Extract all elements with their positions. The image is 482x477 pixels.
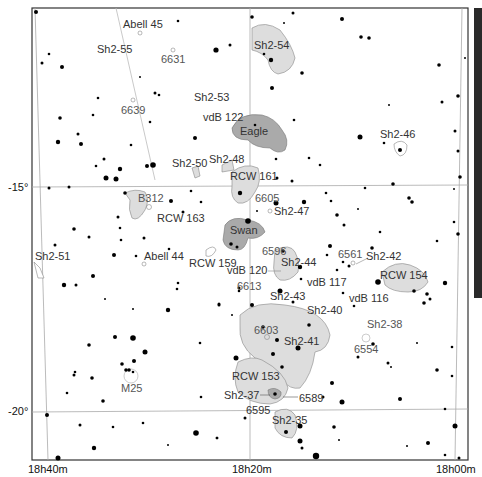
label-sh2-41: Sh2-41 [284, 335, 319, 347]
label-sh2-43: Sh2-43 [270, 290, 305, 302]
label-6631: 6631 [161, 53, 185, 65]
star-chart: Abell 45 Sh2-55 6631 Sh2-54 6639 Sh2-53 … [0, 0, 482, 477]
label-rcw154: RCW 154 [380, 269, 428, 281]
label-sh2-55: Sh2-55 [97, 43, 132, 55]
label-6589: 6589 [299, 392, 323, 404]
ra-label-18h20m: 18h20m [232, 463, 272, 475]
label-sh2-38: Sh2-38 [367, 318, 402, 330]
label-sh2-46: Sh2-46 [380, 128, 415, 140]
label-sh2-48: Sh2-48 [209, 153, 244, 165]
label-sh2-47: Sh2-47 [274, 205, 309, 217]
label-6605: 6605 [255, 192, 279, 204]
ra-label-18h40m: 18h40m [28, 463, 68, 475]
dec-label-20: -20° [8, 405, 28, 417]
label-rcw161: RCW 161 [230, 170, 278, 182]
label-sh2-42: Sh2-42 [366, 250, 401, 262]
label-b312: B312 [138, 192, 164, 204]
label-6554: 6554 [354, 343, 378, 355]
label-vdb122: vdB 122 [203, 111, 243, 123]
dark-side-strip [474, 8, 482, 298]
label-sh2-51: Sh2-51 [35, 250, 70, 262]
label-sh2-54: Sh2-54 [254, 39, 289, 51]
label-rcw163: RCW 163 [157, 212, 205, 224]
ra-label-18h00m: 18h00m [436, 463, 476, 475]
label-6561: 6561 [338, 248, 362, 260]
label-sh2-40: Sh2-40 [307, 304, 342, 316]
label-6603: 6603 [254, 324, 278, 336]
label-sh2-35: Sh2-35 [272, 414, 307, 426]
label-m25: M25 [121, 382, 142, 394]
label-6639: 6639 [121, 104, 145, 116]
label-abell44: Abell 44 [144, 250, 184, 262]
label-sh2-44: Sh2-44 [281, 256, 316, 268]
label-rcw153: RCW 153 [232, 370, 280, 382]
label-abell45: Abell 45 [123, 18, 163, 30]
label-vdb120: vdB 120 [227, 264, 267, 276]
label-sh2-37: Sh2-37 [224, 389, 259, 401]
label-sh2-50: Sh2-50 [172, 157, 207, 169]
label-swan: Swan [230, 224, 258, 236]
label-6613: 6613 [237, 280, 261, 292]
label-eagle: Eagle [240, 125, 268, 137]
dec-label-15: -15° [8, 181, 28, 193]
label-6595: 6595 [246, 404, 270, 416]
label-sh2-53: Sh2-53 [194, 91, 229, 103]
label-vdb116: vdB 116 [349, 292, 389, 304]
label-vdb117: vdB 117 [307, 276, 347, 288]
